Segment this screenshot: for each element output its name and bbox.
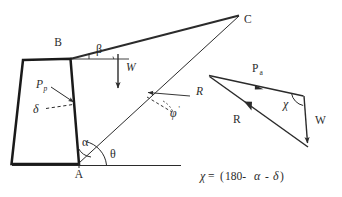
label-point-c: C: [244, 13, 252, 25]
r-vector-group: [147, 93, 190, 113]
equation-term-alpha: α: [254, 169, 261, 183]
equation-term-delta: δ: [273, 169, 279, 183]
label-force-pp-main: P: [35, 78, 43, 90]
equation-open-paren: (: [220, 170, 224, 183]
wall-body: [12, 59, 80, 164]
label-force-r: R: [195, 85, 203, 97]
label-force-pp-sub: p: [43, 84, 48, 93]
label-point-b: B: [54, 36, 62, 48]
label-force-pa-group: P a: [252, 62, 264, 77]
failure-plane-group: [79, 16, 239, 163]
equation-minus: -: [265, 170, 269, 182]
force-triangle-w-edge: [304, 96, 308, 143]
equation-lhs: χ: [199, 169, 206, 183]
label-angle-phi: φ: [170, 106, 177, 120]
theta-angle-arc: [86, 142, 107, 166]
phi-dashed-line-upper: [147, 97, 172, 112]
failure-plane-line: [79, 16, 239, 163]
label-angle-theta: θ: [110, 147, 116, 161]
label-angle-chi: χ: [282, 97, 289, 111]
label-angle-beta: β: [96, 42, 102, 56]
alpha-angle-arc: [78, 148, 91, 157]
label-force-pa-main: P: [252, 62, 258, 74]
retaining-wall: [12, 59, 80, 164]
label-point-a: A: [75, 168, 84, 180]
r-midpoint-arrowhead: [244, 102, 252, 111]
label-angle-phi-group: φ ': [170, 105, 181, 120]
force-triangle: [209, 76, 308, 148]
equation-operator: =: [208, 170, 215, 182]
label-angle-delta: δ: [33, 102, 39, 116]
equation-value: 180-: [225, 170, 246, 182]
figure-root: B β C W R φ ' P p δ α θ A P a: [0, 0, 342, 197]
label-triangle-w: W: [315, 114, 326, 126]
label-triangle-r: R: [233, 113, 241, 125]
retaining-wall-diagram: B β C W R φ ' P p δ α θ A P a: [0, 0, 342, 197]
label-force-w: W: [126, 61, 137, 73]
equation-close-paren: ): [280, 170, 284, 183]
label-angle-phi-prime: ': [179, 105, 181, 114]
equation-chi: χ = ( 180- α - δ ): [199, 169, 284, 183]
label-force-pa-sub: a: [260, 68, 264, 77]
label-angle-alpha: α: [82, 135, 89, 149]
